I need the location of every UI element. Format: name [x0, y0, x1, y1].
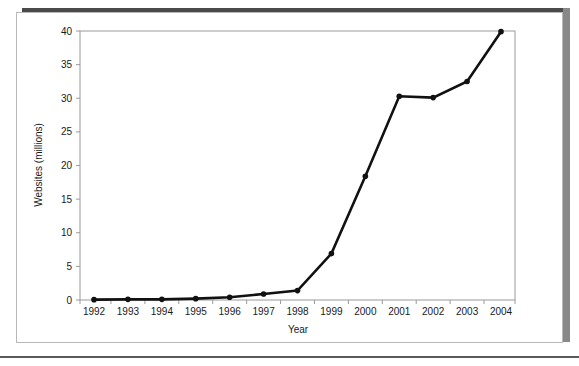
data-point	[363, 173, 369, 179]
series-line-websites	[94, 32, 501, 300]
x-tick-label: 2003	[456, 306, 479, 317]
y-tick-label: 25	[61, 126, 73, 137]
y-tick-label: 40	[61, 26, 73, 37]
series-markers	[91, 29, 504, 303]
y-tick-label: 35	[61, 59, 73, 70]
data-point	[329, 251, 335, 257]
x-tick-label: 1995	[185, 306, 208, 317]
data-point	[193, 296, 199, 302]
x-tick-label: 2001	[388, 306, 411, 317]
data-point	[159, 297, 165, 303]
y-axis-title: Websites (millions)	[33, 123, 44, 207]
x-tick-label: 2002	[422, 306, 445, 317]
data-point	[91, 297, 97, 303]
data-point	[295, 288, 301, 294]
y-tick-label: 5	[66, 261, 72, 272]
y-axis: 0510152025303540	[61, 26, 80, 306]
data-point	[430, 95, 436, 101]
x-tick-label: 1999	[320, 306, 343, 317]
x-tick-label: 1998	[286, 306, 309, 317]
figure-root: 0510152025303540 19921993199419951996199…	[0, 0, 579, 366]
figure-shadow-right	[563, 8, 570, 342]
x-tick-label: 2004	[490, 306, 513, 317]
x-tick-label: 1997	[252, 306, 275, 317]
x-axis: 1992199319941995199619971998199920002001…	[80, 300, 515, 317]
x-tick-label: 1994	[151, 306, 174, 317]
x-tick-label: 1993	[117, 306, 140, 317]
plot-area-frame	[80, 31, 515, 300]
data-point	[261, 291, 267, 297]
x-tick-label: 1992	[83, 306, 106, 317]
y-tick-label: 20	[61, 160, 73, 171]
line-chart: 0510152025303540 19921993199419951996199…	[16, 12, 563, 343]
data-point	[227, 295, 233, 301]
data-point	[464, 79, 470, 85]
y-tick-label: 10	[61, 227, 73, 238]
y-tick-label: 30	[61, 93, 73, 104]
x-axis-title: Year	[288, 324, 309, 335]
data-point	[498, 29, 504, 35]
y-tick-label: 15	[61, 194, 73, 205]
figure-bottom-rule	[0, 356, 579, 358]
data-point	[396, 93, 402, 99]
x-tick-label: 1996	[219, 306, 242, 317]
y-tick-label: 0	[66, 295, 72, 306]
x-tick-label: 2000	[354, 306, 377, 317]
data-point	[125, 297, 131, 303]
